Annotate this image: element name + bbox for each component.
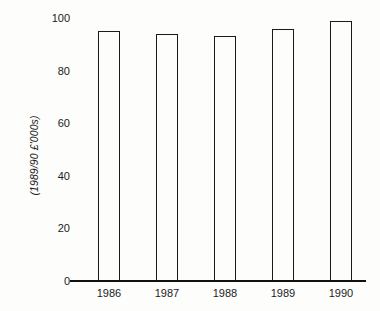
y-tick-label: 80 [24,65,70,77]
bar [156,34,178,281]
y-axis-tick-labels: 100 80 60 40 20 0 [22,0,70,311]
x-tick-label: 1987 [144,287,190,299]
y-tick-label: 100 [24,12,70,24]
bar [330,21,352,281]
bar [98,31,120,281]
x-axis-line [70,280,366,282]
x-tick-label: 1989 [260,287,306,299]
x-tick-label: 1988 [202,287,248,299]
bar [272,29,294,281]
x-tick-label: 1990 [318,287,364,299]
plot-area [76,18,366,281]
y-tick-label: 40 [24,170,70,182]
bar [214,36,236,281]
x-axis-tick-labels: 1986 1987 1988 1989 1990 [76,287,366,307]
x-tick-label: 1986 [86,287,132,299]
y-tick-label: 60 [24,117,70,129]
y-tick-label: 0 [24,275,70,287]
y-tick-label: 20 [24,222,70,234]
bar-chart: (1989/90 £'000s) 100 80 60 40 20 0 1986 … [0,0,380,311]
